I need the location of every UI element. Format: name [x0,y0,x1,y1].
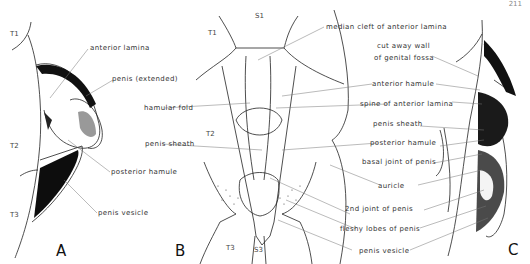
segment-label-s3: S3 [254,247,263,254]
segment-label-t3: T3 [10,212,19,219]
label-penis-sheath-c: penis sheath [373,121,423,128]
label-penis-vesicle-a: penis vesicle [98,210,148,217]
label-median-cleft: median cleft of anterior lamina [326,24,447,31]
page-number: 211 [509,1,522,8]
label-posterior-hamule-c: posterior hamule [370,140,436,147]
segment-label-t1: T1 [10,31,19,38]
label-hamular-fold: hamular fold [144,105,193,112]
segment-label-t2-b: T2 [206,131,215,138]
label-anterior-hamule: anterior hamule [372,81,434,88]
segment-label-s1: S1 [255,13,264,20]
label-penis-sheath-b: penis sheath [145,141,195,148]
label-auricle: auricle [378,183,404,190]
label-spine-anterior-lamina: spine of anterior lamina [360,101,453,108]
label-penis-vesicle-c: penis vesicle [359,248,409,255]
label-posterior-hamule: posterior hamule [111,169,177,176]
label-fleshy-lobes: fleshy lobes of penis [340,226,420,233]
label-anterior-lamina: anterior lamina [90,45,150,52]
segment-label-t2: T2 [10,143,19,150]
segment-label-t1-b: T1 [208,30,217,37]
label-2nd-joint: 2nd joint of penis [345,206,413,213]
figure-odonata-genitalia: 211 T1 T2 T3 anterior lamina penis (exte… [0,0,530,264]
label-genital-fossa: of genital fossa [374,55,434,62]
diagram-drawing [0,0,530,264]
label-basal-joint: basal joint of penis [362,159,436,166]
label-cut-away-wall: cut away wall [377,43,430,50]
panel-letter-a: A [56,244,66,259]
segment-label-t3-b: T3 [226,245,235,252]
panel-letter-b: B [175,244,185,259]
panel-letter-c: C [508,243,518,258]
label-penis-extended: penis (extended) [112,76,178,83]
